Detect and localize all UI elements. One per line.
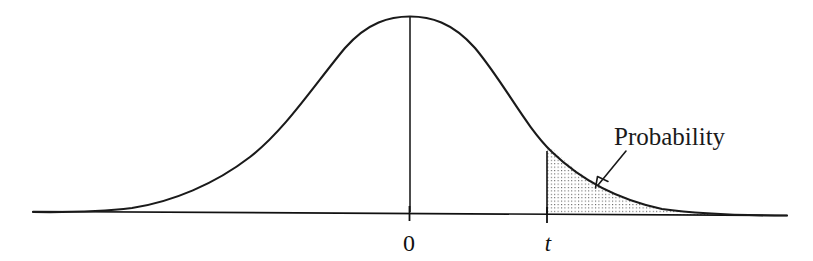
axis-tick-label-zero: 0 [403,230,415,256]
distribution-chart-canvas: 0 t Probability [0,0,813,261]
tail-probability-shading [547,148,709,215]
probability-figure: 0 t Probability [0,0,813,261]
tail-probability-region [547,148,709,215]
axis-tick-label-t: t [545,231,552,256]
probability-arrow [596,151,627,188]
probability-label: Probability [614,123,726,150]
